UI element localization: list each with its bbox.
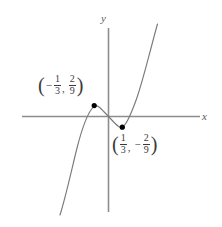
local-max-label: ( − 1 3 , 2 9 ) bbox=[38, 74, 83, 96]
x-fraction: 1 3 bbox=[120, 133, 127, 155]
close-paren: ) bbox=[151, 135, 158, 153]
close-paren: ) bbox=[77, 76, 84, 94]
y-numerator: 2 bbox=[69, 74, 76, 84]
open-paren: ( bbox=[112, 135, 119, 153]
local-min-coordinate: ( 1 3 , − 2 9 ) bbox=[112, 133, 157, 155]
x-fraction: 1 3 bbox=[54, 74, 61, 96]
y-fraction: 2 9 bbox=[143, 133, 150, 155]
y-denominator: 9 bbox=[143, 145, 150, 155]
x-sign: − bbox=[45, 80, 53, 91]
x-denominator: 3 bbox=[54, 86, 61, 96]
local-max-coordinate: ( − 1 3 , 2 9 ) bbox=[38, 74, 83, 96]
x-numerator: 1 bbox=[54, 74, 61, 84]
x-axis-label: x bbox=[202, 111, 207, 122]
plot-area bbox=[0, 0, 222, 227]
local-min-label: ( 1 3 , − 2 9 ) bbox=[112, 133, 157, 155]
local-max-point bbox=[92, 103, 97, 108]
x-denominator: 3 bbox=[120, 145, 127, 155]
y-denominator: 9 bbox=[69, 86, 76, 96]
y-sign: − bbox=[133, 139, 141, 150]
y-axis-label: y bbox=[101, 13, 106, 24]
y-fraction: 2 9 bbox=[69, 74, 76, 96]
x-numerator: 1 bbox=[120, 133, 127, 143]
local-min-point bbox=[120, 125, 125, 130]
comma: , bbox=[62, 83, 68, 96]
open-paren: ( bbox=[38, 76, 45, 94]
cubic-function-graph: y x ( − 1 3 , 2 9 ) ( 1 3 bbox=[0, 0, 222, 227]
y-numerator: 2 bbox=[143, 133, 150, 143]
